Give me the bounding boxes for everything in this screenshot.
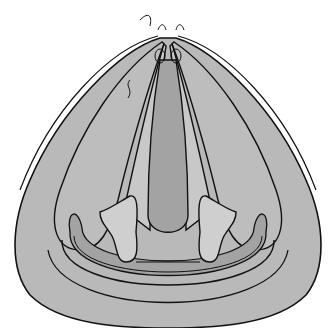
- illustration-canvas: [0, 0, 336, 328]
- suture-threads: [140, 15, 184, 30]
- anatomical-illustration: [0, 0, 336, 328]
